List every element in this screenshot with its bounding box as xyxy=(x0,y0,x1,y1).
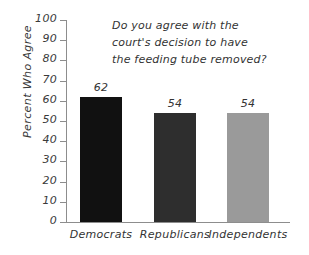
y-axis-tick xyxy=(60,202,67,203)
chart-annotation: Do you agree with the court's decision t… xyxy=(112,17,267,68)
annotation-line-3: the feeding tube removed? xyxy=(112,51,267,68)
y-axis-tick-label: 40 xyxy=(17,133,57,146)
bar xyxy=(227,113,269,222)
y-axis-tick-label: 20 xyxy=(17,174,57,187)
y-axis-tick-label: 10 xyxy=(17,194,57,207)
x-axis-category-label: Independents xyxy=(198,228,298,241)
y-axis-tick xyxy=(60,222,67,223)
y-axis-tick-label: 50 xyxy=(17,113,57,126)
y-axis-tick xyxy=(60,81,67,82)
y-axis-tick-label: 90 xyxy=(17,32,57,45)
y-axis-tick-label: 80 xyxy=(17,52,57,65)
bar-value-label: 54 xyxy=(223,97,273,110)
x-axis-line xyxy=(66,222,290,223)
y-axis-tick-label: 100 xyxy=(17,12,57,25)
y-axis-tick xyxy=(60,161,67,162)
y-axis-tick xyxy=(60,101,67,102)
bar xyxy=(154,113,196,222)
y-axis-tick xyxy=(60,60,67,61)
bar-chart: Percent Who Agree 1009080706050403020100… xyxy=(0,0,309,255)
y-axis-tick-label: 70 xyxy=(17,73,57,86)
bar-value-label: 54 xyxy=(150,97,200,110)
y-axis-tick xyxy=(60,40,67,41)
bar xyxy=(80,97,122,222)
y-axis-tick-label: 60 xyxy=(17,93,57,106)
y-axis-tick xyxy=(60,20,67,21)
y-axis-tick xyxy=(60,141,67,142)
annotation-line-1: Do you agree with the xyxy=(112,17,267,34)
y-axis-tick-label: 0 xyxy=(17,214,57,227)
bar-value-label: 62 xyxy=(76,81,126,94)
y-axis-tick-label: 30 xyxy=(17,153,57,166)
y-axis-tick xyxy=(60,182,67,183)
annotation-line-2: court's decision to have xyxy=(112,34,267,51)
y-axis-tick xyxy=(60,121,67,122)
